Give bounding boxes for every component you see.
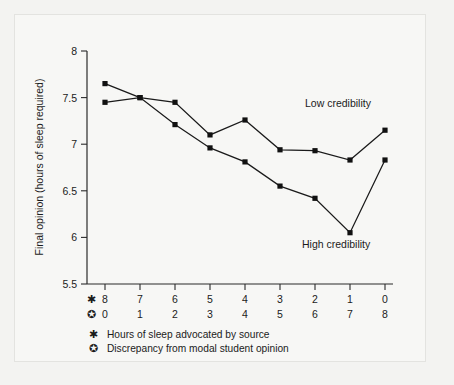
x-tick-row1-5: 3 (277, 293, 283, 305)
x-tick-row1-3: 5 (207, 293, 213, 305)
x-tick-row2-0: 0 (102, 308, 108, 320)
y-tick-label-6: 6 (71, 231, 77, 243)
y-tick-label-5_5: 5.5 (62, 278, 77, 290)
legend-group: ✱ Hours of sleep advocated by source ✪ D… (89, 328, 289, 354)
legend-item-hours-of-sleep: Hours of sleep advocated by source (107, 329, 270, 340)
chart-plot-area: 8 7.5 7 6.5 6 5.5 Final opinion (hours o… (15, 15, 427, 363)
x-tick-row2-3: 3 (207, 308, 213, 320)
y-axis-title: Final opinion (hours of sleep required) (33, 79, 45, 256)
figure-panel: 8 7.5 7 6.5 6 5.5 Final opinion (hours o… (14, 14, 426, 362)
x-tick-row1-8: 0 (382, 293, 388, 305)
circled-star-marker-icon: ✪ (87, 308, 96, 320)
series-label-low-credibility: Low credibility (305, 97, 372, 109)
line-chart-svg: 8 7.5 7 6.5 6 5.5 Final opinion (hours o… (15, 15, 427, 363)
x-tick-row2-7: 7 (347, 308, 353, 320)
x-tick-row2-6: 6 (312, 308, 318, 320)
x-axis-ticks (105, 284, 385, 290)
y-tick-label-7: 7 (71, 138, 77, 150)
x-tick-row1-6: 2 (312, 293, 318, 305)
x-tick-row1-4: 4 (242, 293, 248, 305)
legend-circled-star-icon: ✪ (89, 342, 98, 354)
y-tick-label-6_5: 6.5 (62, 185, 77, 197)
x-axis-group: ✱ 8 7 6 5 4 3 2 1 0 ✪ 0 1 2 3 4 5 6 7 8 (87, 284, 394, 320)
y-tick-label-8: 8 (71, 45, 77, 57)
legend-item-discrepancy: Discrepancy from modal student opinion (107, 343, 289, 354)
x-tick-row2-1: 1 (137, 308, 143, 320)
x-tick-row2-2: 2 (172, 308, 178, 320)
y-axis-group: 8 7.5 7 6.5 6 5.5 Final opinion (hours o… (33, 45, 87, 290)
x-tick-row2-4: 4 (242, 308, 248, 320)
y-axis-ticks (81, 51, 87, 284)
asterisk-marker-icon: ✱ (87, 293, 96, 305)
legend-asterisk-icon: ✱ (89, 328, 98, 340)
x-tick-row1-7: 1 (347, 293, 353, 305)
x-tick-row1-2: 6 (172, 293, 178, 305)
series-label-high-credibility: High credibility (302, 238, 371, 250)
x-tick-row2-8: 8 (382, 308, 388, 320)
x-tick-row2-5: 5 (277, 308, 283, 320)
y-tick-label-7_5: 7.5 (62, 92, 77, 104)
x-tick-row1-0: 8 (102, 293, 108, 305)
x-tick-row1-1: 7 (137, 293, 143, 305)
